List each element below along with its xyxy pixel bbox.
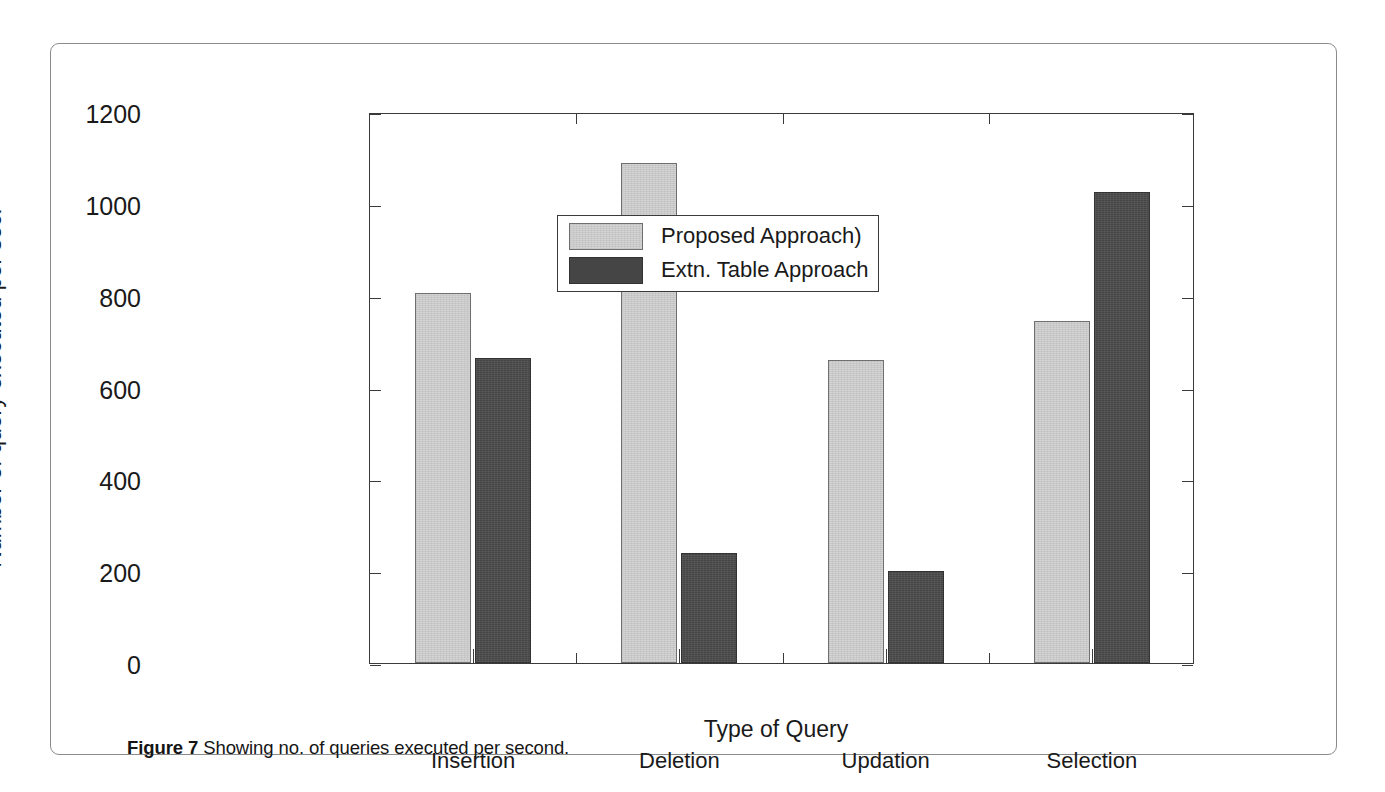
x-axis-tick: [783, 653, 784, 663]
y-axis-tick: [370, 481, 381, 482]
x-axis-label-deletion: Deletion: [639, 748, 720, 774]
bar-selection-series-1: [1094, 192, 1150, 663]
figure-caption-text: Showing no. of queries executed per seco…: [203, 737, 569, 758]
y-axis-tick: [370, 298, 381, 299]
x-axis-title: Type of Query: [704, 716, 848, 743]
y-axis-tick: [1182, 114, 1193, 115]
x-axis-minor-tick: [679, 649, 680, 663]
figure-caption: Figure 7 Showing no. of queries executed…: [127, 737, 569, 759]
y-axis-tick-label: 1200: [85, 100, 141, 129]
x-axis-tick: [576, 653, 577, 663]
figure-frame: Number of query executed per sec. Type o…: [50, 43, 1337, 755]
bar-updation-series-0: [828, 360, 884, 663]
y-axis-tick: [370, 573, 381, 574]
y-axis-tick: [1182, 573, 1193, 574]
x-axis-tick: [989, 114, 990, 124]
bar-deletion-series-1: [681, 553, 737, 663]
legend-swatch-icon-proposed-approach: [569, 223, 643, 250]
plot-area: 020040060080010001200InsertionDeletionUp…: [369, 113, 1194, 664]
y-axis-tick-label: 800: [99, 283, 141, 312]
y-axis-tick: [1182, 665, 1193, 666]
bar-insertion-series-0: [415, 293, 471, 663]
x-axis-label-updation: Updation: [842, 748, 930, 774]
legend-label-extn-table-approach: Extn. Table Approach: [661, 257, 869, 283]
x-axis-label-selection: Selection: [1047, 748, 1138, 774]
y-axis-tick-label: 600: [99, 375, 141, 404]
legend-item-proposed-approach: Proposed Approach): [569, 222, 862, 250]
y-axis-tick: [370, 114, 381, 115]
x-axis-tick: [783, 114, 784, 124]
legend-swatch-icon-extn-table-approach: [569, 257, 643, 284]
legend-label-proposed-approach: Proposed Approach): [661, 223, 862, 249]
y-axis-tick: [1182, 206, 1193, 207]
x-axis-minor-tick: [473, 649, 474, 663]
y-axis-tick-label: 0: [127, 651, 141, 680]
figure-caption-label: Figure 7: [127, 737, 198, 758]
y-axis-title: Number of query executed per sec.: [0, 208, 7, 567]
bar-chart: Number of query executed per sec. Type o…: [51, 44, 1385, 756]
x-axis-tick: [576, 114, 577, 124]
y-axis-tick: [1182, 298, 1193, 299]
y-axis-tick: [370, 390, 381, 391]
x-axis-tick: [989, 653, 990, 663]
x-axis-minor-tick: [886, 649, 887, 663]
y-axis-tick: [1182, 481, 1193, 482]
y-axis-tick-label: 400: [99, 467, 141, 496]
y-axis-tick: [1182, 390, 1193, 391]
bar-insertion-series-1: [475, 358, 531, 663]
bar-updation-series-1: [888, 571, 944, 663]
y-axis-tick-label: 1000: [85, 191, 141, 220]
y-axis-tick: [370, 665, 381, 666]
x-axis-minor-tick: [1092, 649, 1093, 663]
y-axis-tick-label: 200: [99, 559, 141, 588]
legend-item-extn-table-approach: Extn. Table Approach: [569, 256, 869, 284]
chart-legend: Proposed Approach) Extn. Table Approach: [557, 215, 879, 292]
bar-selection-series-0: [1034, 321, 1090, 663]
y-axis-tick: [370, 206, 381, 207]
